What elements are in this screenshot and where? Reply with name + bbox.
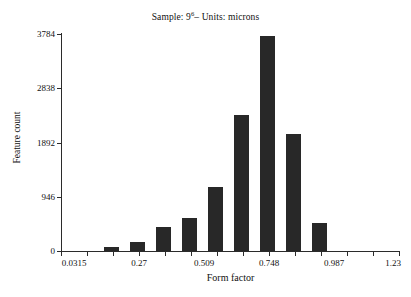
x-tick-mark-minor [139, 252, 140, 256]
x-tick-label-5: 1.23 [385, 258, 401, 268]
x-tick-mark-minor [243, 252, 244, 256]
y-tick-label-3784: 3784 [37, 30, 55, 39]
x-tick-label-4: 0.987 [324, 258, 344, 268]
x-tick-mark-minor [217, 252, 218, 256]
plot-area [61, 34, 399, 251]
x-tick-mark-minor [399, 252, 400, 256]
bar-0 [104, 247, 119, 251]
x-tick-label-0: 0.0315 [62, 258, 87, 268]
y-tick-label-0: 0 [51, 247, 56, 256]
x-tick-label-2: 0.509 [194, 258, 214, 268]
x-tick-mark-minor [269, 252, 270, 256]
bar-2 [156, 227, 171, 251]
bar-3 [182, 218, 197, 251]
y-tick-label-2838: 2838 [37, 84, 55, 93]
x-tick-label-1: 0.27 [131, 258, 147, 268]
y-tick-label-946: 946 [42, 193, 56, 202]
bar-7 [286, 134, 301, 251]
chart-title: Sample: 96– Units: microns [0, 11, 411, 23]
bar-4 [208, 187, 223, 251]
y-tick-label-1892: 1892 [37, 139, 55, 148]
histogram-figure: Sample: 96– Units: microns 0 946 1892 28… [0, 0, 411, 297]
x-tick-mark-minor [165, 252, 166, 256]
x-axis-title: Form factor [61, 272, 400, 284]
y-axis-title: Feature count [12, 83, 23, 193]
x-tick-mark-minor [373, 252, 374, 256]
x-tick-mark-minor [321, 252, 322, 256]
x-tick-label-3: 0.748 [259, 258, 279, 268]
bar-5 [234, 115, 249, 251]
x-tick-mark-minor [87, 252, 88, 256]
x-tick-mark-minor [295, 252, 296, 256]
x-axis-line [61, 251, 400, 252]
x-tick-mark-minor [113, 252, 114, 256]
x-tick-mark-minor [61, 252, 62, 256]
chart-title-prefix: Sample: 9 [152, 12, 191, 22]
bar-8 [312, 223, 327, 251]
bar-1 [130, 242, 145, 251]
bar-6 [260, 36, 275, 251]
chart-title-suffix: – Units: microns [194, 12, 259, 22]
x-tick-mark-minor [347, 252, 348, 256]
x-tick-mark-minor [191, 252, 192, 256]
